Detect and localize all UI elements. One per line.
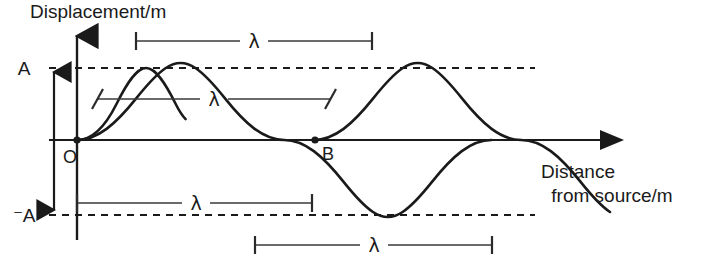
- wavelength-measure-bottom: λ: [255, 234, 492, 256]
- origin-label: O: [63, 147, 77, 167]
- origin-point-dot: [73, 136, 80, 143]
- wavelength-measure-top: λ: [136, 30, 372, 52]
- negative-amplitude-label: ⁻A: [13, 205, 36, 226]
- point-b-label: B: [322, 144, 334, 164]
- y-axis-title: Displacement/m: [30, 1, 166, 22]
- wavelength-label-upper: λ: [208, 88, 219, 110]
- x-axis-title-line2: from source/m: [551, 185, 672, 206]
- wavelength-label-bottom: λ: [368, 234, 379, 256]
- positive-amplitude-label: A: [18, 58, 31, 79]
- wavelength-measure-lower: λ: [77, 192, 312, 214]
- wave-diagram: Displacement/m A ⁻A O B λ λ: [0, 0, 702, 271]
- x-axis-title-line1: Distance: [541, 161, 615, 182]
- wavelength-label-lower: λ: [190, 192, 201, 214]
- point-b-dot: [311, 136, 318, 143]
- wavelength-label-top: λ: [248, 30, 259, 52]
